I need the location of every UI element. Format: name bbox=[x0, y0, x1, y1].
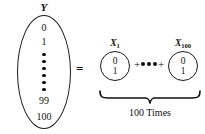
x1-variable-label: X1 bbox=[98, 38, 132, 49]
y-value-one: 1 bbox=[42, 36, 47, 48]
plus-operator-left: + bbox=[134, 59, 140, 70]
y-value-ninety-nine: 99 bbox=[39, 95, 49, 107]
x1-value-one: 1 bbox=[113, 66, 118, 76]
vertical-dot bbox=[42, 67, 45, 70]
x1-circle-shape: 0 1 bbox=[100, 51, 130, 81]
underbrace-caption: 100 Times bbox=[98, 107, 202, 119]
x100-term-group: X100 0 1 bbox=[166, 38, 200, 90]
underbrace-group: 100 Times bbox=[98, 90, 202, 132]
y-variable-label: Y bbox=[15, 2, 73, 13]
x1-term-group: X1 0 1 bbox=[98, 38, 132, 90]
y-value-zero: 0 bbox=[42, 22, 47, 34]
horizontal-dot bbox=[147, 62, 151, 66]
vertical-dot bbox=[42, 74, 45, 77]
horizontal-dot bbox=[153, 62, 157, 66]
x1-value-zero: 0 bbox=[113, 56, 118, 66]
x1-subscript: 1 bbox=[117, 42, 120, 49]
plus-operator-right: + bbox=[158, 59, 164, 70]
vertical-dot bbox=[42, 60, 45, 63]
vertical-dot bbox=[42, 53, 45, 56]
x100-subscript: 100 bbox=[181, 42, 191, 49]
vertical-dot bbox=[42, 81, 45, 84]
x100-variable-label: X100 bbox=[166, 38, 200, 49]
equals-sign: = bbox=[76, 62, 83, 75]
y-value-one-hundred: 100 bbox=[37, 111, 52, 123]
x100-value-zero: 0 bbox=[181, 56, 186, 66]
x100-circle-shape: 0 1 bbox=[168, 51, 198, 81]
vertical-dot bbox=[42, 88, 45, 91]
x-sum-group: X1 0 1 + + X100 0 1 bbox=[96, 38, 204, 94]
horizontal-ellipsis-icon bbox=[141, 62, 157, 66]
x1-variable-letter: X bbox=[110, 38, 116, 48]
horizontal-dot bbox=[141, 62, 145, 66]
underbrace-icon bbox=[98, 90, 202, 106]
binomial-decomposition-diagram: Y 0 1 99 100 = X1 0 1 bbox=[0, 0, 205, 134]
x100-value-one: 1 bbox=[181, 66, 186, 76]
y-vertical-ellipsis-icon bbox=[42, 51, 45, 93]
y-variable-group: Y 0 1 99 100 bbox=[15, 2, 73, 132]
y-value-list: 0 1 99 100 bbox=[17, 15, 71, 129]
